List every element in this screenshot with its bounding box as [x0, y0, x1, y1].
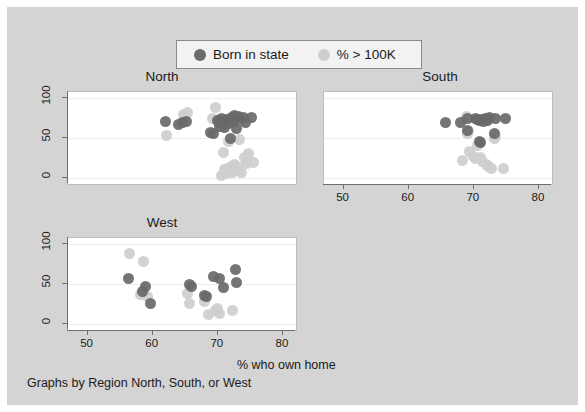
x-axis-tick [343, 184, 344, 189]
y-axis-tick [62, 243, 67, 244]
data-point [457, 155, 468, 166]
legend-label-born-in-state: Born in state [213, 47, 289, 62]
data-point [246, 112, 257, 123]
data-point [161, 130, 172, 141]
gridline [68, 324, 296, 325]
data-point [186, 281, 197, 292]
panel-west: West 050100 50607080 [27, 215, 297, 355]
panel-north: North 050100 [27, 69, 297, 194]
x-axis-tick [473, 184, 474, 189]
data-point [234, 134, 245, 145]
plot-area-south [323, 91, 553, 185]
data-point [474, 136, 485, 147]
x-axis-title: % who own home [237, 358, 336, 372]
x-axis-label: 80 [276, 337, 289, 349]
data-point [230, 264, 241, 275]
data-point [123, 273, 134, 284]
x-axis-tick [538, 184, 539, 189]
chart-caption: Graphs by Region North, South, or West [27, 376, 251, 390]
gridline [68, 244, 296, 245]
data-point [138, 256, 149, 267]
x-axis-tick [282, 330, 283, 335]
data-point [218, 282, 229, 293]
x-axis-label: 80 [532, 191, 545, 203]
x-axis-tick [87, 330, 88, 335]
data-point [231, 277, 242, 288]
y-axis-label: 50 [40, 268, 52, 294]
legend-marker-over-100k [318, 49, 330, 61]
y-axis-tick [62, 283, 67, 284]
x-axis-label: 70 [210, 337, 223, 349]
data-point [489, 128, 500, 139]
x-axis-tick [408, 184, 409, 189]
data-point [498, 163, 509, 174]
x-axis-label: 70 [466, 191, 479, 203]
data-point [500, 113, 511, 124]
x-axis-label: 50 [336, 191, 349, 203]
gridline [68, 178, 296, 179]
y-axis-line [67, 237, 68, 329]
data-point [248, 157, 259, 168]
gridline [324, 98, 552, 99]
panel-title-south: South [305, 69, 575, 84]
legend-label-over-100k: % > 100K [337, 47, 396, 62]
data-point [124, 248, 135, 259]
data-point [440, 117, 451, 128]
data-point [462, 125, 473, 136]
panel-south: South 50607080 [305, 69, 575, 194]
x-axis-label: 60 [401, 191, 414, 203]
chart-legend: Born in state % > 100K [176, 40, 422, 69]
gridline [324, 138, 552, 139]
x-axis-tick [152, 330, 153, 335]
y-axis-tick [62, 137, 67, 138]
y-axis-label: 0 [40, 308, 52, 334]
data-point [227, 305, 238, 316]
legend-item-over-100k: % > 100K [318, 47, 396, 62]
y-axis-label: 0 [40, 162, 52, 188]
data-point [145, 298, 156, 309]
y-axis-label: 100 [40, 228, 52, 254]
y-axis-label: 50 [40, 122, 52, 148]
legend-marker-born-in-state [194, 49, 206, 61]
plot-area-west [67, 237, 297, 331]
data-point [160, 116, 171, 127]
data-point [214, 121, 225, 132]
gridline [68, 138, 296, 139]
data-point [216, 170, 227, 181]
plot-area-north [67, 91, 297, 185]
y-axis-tick [62, 97, 67, 98]
data-point [210, 102, 221, 113]
y-axis-line [67, 91, 68, 183]
data-point [140, 281, 151, 292]
legend-item-born-in-state: Born in state [194, 47, 289, 62]
data-point [181, 116, 192, 127]
data-point [184, 298, 195, 309]
x-axis-label: 60 [145, 337, 158, 349]
y-axis-tick [62, 177, 67, 178]
x-axis-line [67, 330, 295, 331]
gridline [68, 98, 296, 99]
x-axis-line [323, 184, 551, 185]
x-axis-label: 50 [80, 337, 93, 349]
panel-title-north: North [27, 69, 297, 84]
data-point [201, 291, 212, 302]
data-point [225, 133, 236, 144]
data-point [218, 147, 229, 158]
gridline [68, 284, 296, 285]
x-axis-tick [217, 330, 218, 335]
y-axis-label: 100 [40, 82, 52, 108]
y-axis-tick [62, 323, 67, 324]
panel-title-west: West [27, 215, 297, 230]
gridline [324, 178, 552, 179]
data-point [486, 163, 497, 174]
chart-figure: Born in state % > 100K North 050100 Sout… [7, 7, 578, 405]
